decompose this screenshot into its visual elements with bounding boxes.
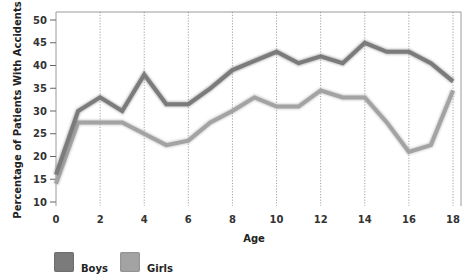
data-series — [56, 43, 453, 184]
x-tick-label: 14 — [358, 214, 372, 225]
x-axis: 024681012141618 — [53, 214, 460, 225]
x-tick-label: 8 — [229, 214, 236, 225]
x-tick-label: 18 — [446, 214, 460, 225]
y-tick-label: 25 — [33, 128, 47, 139]
x-tick-label: 12 — [314, 214, 328, 225]
x-axis-title: Age — [243, 233, 265, 244]
y-axis: 101520253035404550 — [33, 15, 56, 208]
x-tick-label: 4 — [141, 214, 148, 225]
y-tick-label: 30 — [33, 106, 47, 117]
y-tick-label: 50 — [33, 15, 47, 26]
x-tick-label: 2 — [97, 214, 104, 225]
legend-label-girls: Girls — [147, 264, 173, 274]
y-tick-label: 15 — [33, 174, 47, 185]
x-tick-label: 6 — [185, 214, 192, 225]
y-tick-label: 35 — [33, 83, 47, 94]
y-tick-label: 20 — [33, 151, 47, 162]
y-axis-title: Percentage of Patients With Accidents — [12, 1, 23, 218]
series-boys-line — [56, 43, 453, 175]
x-tick-label: 10 — [270, 214, 284, 225]
y-tick-label: 10 — [33, 197, 47, 208]
x-tick-label: 16 — [402, 214, 416, 225]
legend-label-boys: Boys — [81, 264, 108, 274]
y-tick-label: 40 — [33, 60, 47, 71]
x-tick-label: 0 — [53, 214, 60, 225]
y-tick-label: 45 — [33, 37, 47, 48]
